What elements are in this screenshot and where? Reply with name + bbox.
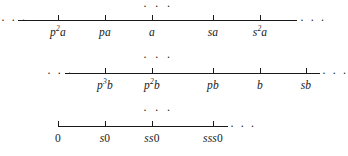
tick-label-row-a-3: sa — [208, 26, 219, 38]
tick-mark-row-zero-1 — [105, 121, 106, 127]
tick-label-row-b-3: b — [257, 79, 263, 91]
tick-mark-row-b-0 — [105, 68, 106, 74]
axis-line-row-b — [65, 73, 320, 74]
tick-label-row-a-4: s2a — [253, 26, 268, 38]
right-ellipsis-row-b: · · · — [322, 67, 348, 79]
tick-mark-row-a-0 — [58, 15, 59, 21]
tick-mark-row-b-2 — [213, 68, 214, 74]
tick-mark-row-zero-0 — [58, 121, 59, 127]
tick-label-row-zero-3: sss0 — [203, 132, 223, 144]
tick-mark-row-zero-2 — [152, 121, 153, 127]
middle-ellipsis-1: · · · — [143, 52, 173, 62]
left-ellipsis-row-b: · · · — [47, 67, 73, 79]
tick-label-row-zero-0: 0 — [55, 132, 61, 144]
tick-label-row-b-4: sb — [301, 79, 312, 91]
tick-mark-row-a-4 — [260, 15, 261, 21]
middle-ellipsis-2: · · · — [143, 105, 173, 115]
tick-mark-row-zero-3 — [213, 121, 214, 127]
tick-mark-row-b-3 — [260, 68, 261, 74]
tick-label-row-zero-1: s0 — [100, 132, 111, 144]
tick-mark-row-a-1 — [105, 15, 106, 21]
tick-mark-row-a-2 — [152, 15, 153, 21]
tick-label-row-b-2: pb — [207, 79, 219, 91]
tick-label-row-b-0: p3b — [97, 79, 113, 91]
tick-label-row-a-1: pa — [99, 26, 111, 38]
axis-line-row-zero — [58, 126, 228, 127]
tick-mark-row-b-1 — [152, 68, 153, 74]
tick-mark-row-a-3 — [213, 15, 214, 21]
axis-line-row-a — [18, 20, 297, 21]
tick-label-row-b-1: p2b — [144, 79, 160, 91]
tick-label-row-a-2: a — [149, 26, 155, 38]
left-ellipsis-row-a: · · · — [1, 14, 27, 26]
tick-label-row-a-0: p2a — [50, 26, 66, 38]
top-ellipsis: · · · — [143, 1, 173, 11]
right-ellipsis-row-zero: · · · — [230, 120, 256, 132]
right-ellipsis-row-a: · · · — [300, 14, 326, 26]
tick-label-row-zero-2: ss0 — [144, 132, 159, 144]
tick-mark-row-b-4 — [306, 68, 307, 74]
